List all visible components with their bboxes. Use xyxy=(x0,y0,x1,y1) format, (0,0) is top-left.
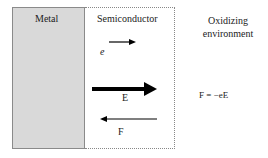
force-arrow-icon xyxy=(100,116,157,122)
force-equation: F = −eE xyxy=(199,90,228,100)
electron-arrow-icon xyxy=(109,39,136,45)
force-label: F xyxy=(118,126,124,137)
arrows xyxy=(0,0,268,158)
electron-label: e xyxy=(100,46,104,57)
field-label: E xyxy=(122,92,128,103)
